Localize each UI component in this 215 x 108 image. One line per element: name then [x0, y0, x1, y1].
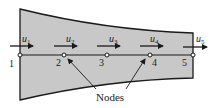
diagram-svg: u1 u2 u3 u4 u5 1 2 3 4 5 Nodes: [0, 0, 215, 108]
node-number: 3: [99, 57, 104, 68]
node-2: [62, 53, 66, 57]
svg-text:u5: u5: [196, 33, 205, 46]
nodes-label: Nodes: [96, 91, 124, 103]
node-number: 1: [9, 58, 14, 69]
node-5: [191, 53, 195, 57]
node-number: 5: [182, 57, 187, 68]
node-number: 2: [56, 57, 61, 68]
node-3: [105, 53, 109, 57]
tapered-bar-diagram: u1 u2 u3 u4 u5 1 2 3 4 5 Nodes: [0, 0, 215, 108]
node-1: [18, 53, 22, 57]
node-number: 4: [152, 57, 157, 68]
